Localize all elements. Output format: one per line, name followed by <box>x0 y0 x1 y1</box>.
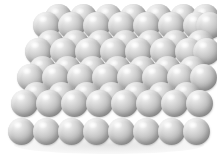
lattice-sphere <box>83 118 110 145</box>
lattice-sphere <box>33 118 60 145</box>
lattice-sphere <box>61 90 88 117</box>
lattice-sphere <box>111 90 138 117</box>
lattice-sphere <box>86 90 113 117</box>
close-packed-sphere-lattice-figure <box>0 0 217 160</box>
lattice-sphere <box>58 118 85 145</box>
lattice-sphere <box>133 118 160 145</box>
lattice-sphere <box>183 118 210 145</box>
lattice-sphere <box>11 90 38 117</box>
lattice-sphere <box>108 118 135 145</box>
lattice-sphere <box>161 90 188 117</box>
lattice-sphere <box>136 90 163 117</box>
lattice-sphere <box>158 118 185 145</box>
lattice-sphere <box>8 118 35 145</box>
lattice-sphere <box>186 90 213 117</box>
lattice-sphere <box>36 90 63 117</box>
sphere-lattice <box>0 0 217 160</box>
